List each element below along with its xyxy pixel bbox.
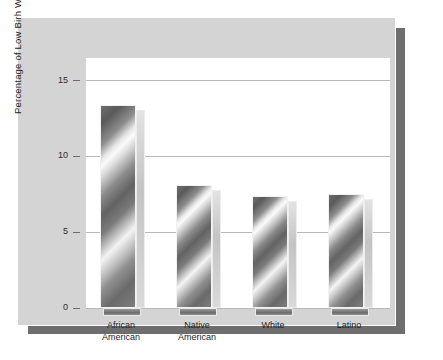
bar-front-face [328,194,364,308]
bar-side-face [364,199,373,308]
x-axis-label-line: American [81,332,161,344]
bar-bottom-face [103,308,141,316]
bar-side-face [136,110,145,308]
x-axis-label-line: Latino [309,320,389,332]
bar-front-face [100,105,136,308]
bar-bottom-face [179,308,217,316]
x-axis-label-line: American [157,332,237,344]
bar-bottom-face [255,308,293,316]
x-axis-label-line: White [233,320,313,332]
bar-african-american[interactable] [100,105,136,308]
y-tick-mark-15 [73,80,80,81]
x-axis-label-native-american: NativeAmerican [157,320,237,343]
bar-native-american[interactable] [176,185,212,308]
plot-area [86,58,390,308]
bar-latino[interactable] [328,194,364,308]
bar-white[interactable] [252,196,288,308]
bar-side-face [212,190,221,308]
y-tick-mark-0 [73,308,80,309]
x-axis-label-line: African [81,320,161,332]
x-axis-label-white: White [233,320,313,332]
y-tick-mark-5 [73,232,80,233]
y-tick-label-0: 0 [38,303,68,312]
panel-shadow-right [396,28,405,333]
gridline-15 [86,80,390,81]
y-tick-label-10: 10 [38,151,68,160]
bar-bottom-face [331,308,369,316]
x-axis-label-african-american: AfricanAmerican [81,320,161,343]
bar-side-face [288,201,297,308]
x-axis-label-latino: Latino [309,320,389,332]
bar-front-face [176,185,212,308]
figure-panel: Percentage of Low Birh Weight 051015 Afr… [18,18,395,325]
y-tick-mark-10 [73,156,80,157]
y-axis-title: Percentage of Low Birh Weight [12,0,23,114]
x-axis-label-line: Native [157,320,237,332]
y-tick-label-5: 5 [38,227,68,236]
bar-front-face [252,196,288,308]
y-tick-label-15: 15 [38,76,68,85]
